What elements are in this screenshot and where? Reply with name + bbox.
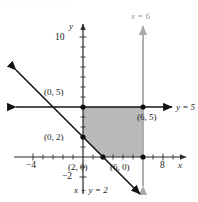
point-6-0 [140, 154, 145, 159]
x-tick-label-neg4: −4 [26, 161, 36, 171]
coordinate-plane-svg [0, 0, 198, 202]
graph-figure: WEB CHAP 3 [0, 0, 198, 202]
point-label-6-0: (6, 0) [110, 163, 130, 172]
shaded-feasible-region [83, 107, 143, 157]
point-label-0-2: (0, 2) [44, 133, 64, 142]
y-tick-label-neg2: −2 [62, 172, 72, 182]
point-6-5 [140, 104, 145, 109]
y-axis-label: y [69, 22, 73, 31]
label-x-plus-y-equals-2: x + y = 2 [74, 186, 108, 195]
point-label-6-5: (6, 5) [137, 113, 157, 122]
point-0-2 [80, 134, 85, 139]
label-y-equals-5: y = 5 [176, 103, 195, 112]
point-label-2-0: (2, 0) [68, 163, 88, 172]
point-2-0 [100, 154, 105, 159]
point-label-0-5: (0, 5) [44, 88, 64, 97]
y-tick-label-10: 10 [55, 33, 65, 43]
point-0-5 [80, 104, 85, 109]
x-tick-label-8: 8 [160, 161, 165, 171]
label-x-equals-6: x = 6 [131, 12, 150, 21]
x-axis-label: x [178, 161, 182, 170]
